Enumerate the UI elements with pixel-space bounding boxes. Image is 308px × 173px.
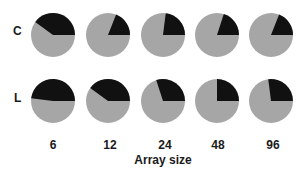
x-tick-6: 6	[50, 138, 57, 152]
pie-grid-chart	[0, 0, 308, 173]
x-tick-48: 48	[211, 138, 224, 152]
pie-black-slice	[268, 79, 293, 101]
x-tick-12: 12	[103, 138, 116, 152]
pie-black-slice	[217, 79, 239, 101]
x-tick-96: 96	[266, 138, 279, 152]
row-label-c: C	[13, 24, 22, 38]
pie-c-48	[195, 13, 239, 57]
pie-c-24	[141, 13, 185, 57]
pie-black-slice	[31, 79, 75, 101]
pie-c-6	[31, 13, 75, 57]
x-tick-24: 24	[158, 138, 171, 152]
pie-l-48	[195, 79, 239, 123]
pie-l-6	[31, 79, 75, 123]
pie-l-96	[249, 79, 293, 123]
pie-c-12	[86, 13, 130, 57]
pie-c-96	[249, 13, 293, 57]
pie-black-slice	[163, 13, 185, 35]
x-axis-title: Array size	[134, 153, 191, 167]
row-label-l: L	[14, 91, 21, 105]
pie-l-24	[141, 79, 185, 123]
pie-l-12	[86, 79, 130, 123]
